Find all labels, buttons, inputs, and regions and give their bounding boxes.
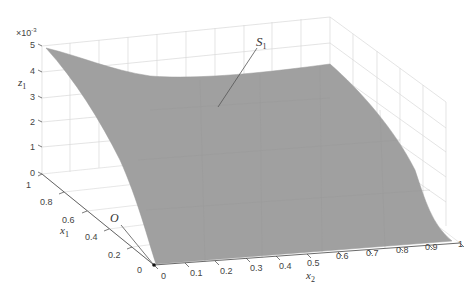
z-axis-tick-labels: 5 4 3 2 1 0	[30, 40, 35, 178]
svg-text:0: 0	[30, 168, 35, 178]
svg-text:4: 4	[30, 66, 35, 76]
s1-label: S1	[256, 34, 267, 51]
surface-s1	[46, 48, 452, 264]
svg-text:0.3: 0.3	[250, 263, 263, 273]
svg-text:0.6: 0.6	[336, 251, 349, 261]
surface-plot: 5 4 3 2 1 0 ×10-3 z1 1 0.8 0.6 0.4 0.2 0…	[0, 0, 476, 297]
svg-text:3: 3	[30, 92, 35, 102]
svg-text:2: 2	[30, 117, 35, 127]
svg-text:0.8: 0.8	[40, 197, 53, 207]
svg-text:0.2: 0.2	[108, 250, 121, 260]
z-exponent-label: ×10-3	[16, 27, 37, 38]
z-axis-ticks	[38, 44, 42, 174]
z-axis-label: z1	[17, 76, 26, 91]
x2-axis-label: x2	[305, 269, 315, 284]
svg-text:1: 1	[30, 142, 35, 152]
svg-text:0.8: 0.8	[396, 245, 409, 255]
svg-text:1: 1	[26, 180, 31, 190]
svg-text:0.1: 0.1	[190, 268, 203, 278]
svg-text:0.4: 0.4	[85, 232, 98, 242]
svg-text:0.7: 0.7	[366, 248, 379, 258]
svg-text:0.9: 0.9	[425, 242, 438, 252]
svg-text:0.4: 0.4	[279, 261, 292, 271]
origin-label: O	[110, 211, 119, 225]
x1-axis-tick-labels: 1 0.8 0.6 0.4 0.2 0	[26, 180, 142, 275]
origin-point	[152, 263, 156, 267]
x1-axis-label: x1	[59, 224, 69, 239]
svg-text:5: 5	[30, 40, 35, 50]
svg-text:0: 0	[161, 271, 166, 281]
svg-text:0: 0	[137, 265, 142, 275]
svg-text:1: 1	[458, 239, 463, 249]
svg-text:0.2: 0.2	[220, 266, 233, 276]
svg-text:0.5: 0.5	[307, 258, 320, 268]
